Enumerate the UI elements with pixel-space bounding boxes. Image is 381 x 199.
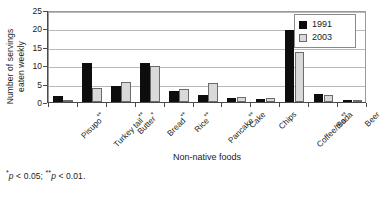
bar-pancake-2003 [208, 83, 218, 103]
legend-item-2003: 2003 [299, 31, 351, 44]
y-axis-line [47, 11, 48, 103]
x-tick-mark [77, 103, 78, 107]
y-tick-mark [43, 103, 47, 104]
x-tick-label-chips: Chips [277, 110, 298, 131]
x-tick-label-bread: Bread** [163, 110, 191, 138]
y-tick-label: 15 [24, 44, 42, 53]
x-tick-mark [279, 103, 280, 107]
y-tick-label: 25 [24, 7, 42, 16]
x-tick-label-soda: Soda [334, 110, 354, 130]
footnote-value-1: < 0.05; [14, 171, 46, 181]
x-tick-mark [48, 103, 49, 107]
x-tick-mark [366, 103, 367, 107]
bar-bread-1991 [140, 63, 150, 102]
x-tick-mark [221, 103, 222, 107]
x-tick-mark [135, 103, 136, 107]
bar-butter-2003 [121, 82, 131, 102]
y-tick-label: 20 [24, 25, 42, 34]
x-tick-mark [250, 103, 251, 107]
legend-swatch-icon-1991 [299, 21, 307, 29]
x-tick-label-beer: Beer [363, 110, 381, 129]
y-tick-label: 0 [24, 99, 42, 108]
significance-footnote: *p < 0.05; **p < 0.01. [6, 169, 85, 181]
bar-butter-1991 [111, 86, 121, 102]
bar-turkey-tail-1991 [82, 63, 92, 102]
x-tick-mark [164, 103, 165, 107]
y-tick-label: 10 [24, 62, 42, 71]
legend-label-1991: 1991 [312, 20, 332, 29]
legend-swatch-icon-2003 [299, 34, 307, 42]
bar-rice-2003 [179, 89, 189, 102]
x-tick-label-rice: Rice** [190, 110, 214, 134]
y-axis-title: Number of servings eaten weekly [5, 8, 26, 126]
bar-turkey-tail-2003 [92, 88, 102, 102]
bar-coffee-tea-1991 [285, 30, 295, 102]
x-tick-mark [193, 103, 194, 107]
bar-soda-2003 [324, 95, 334, 102]
bar-bread-2003 [150, 66, 160, 102]
legend-label-2003: 2003 [312, 33, 332, 42]
x-tick-mark [106, 103, 107, 107]
x-tick-mark [308, 103, 309, 107]
x-axis-line [47, 102, 366, 103]
bar-pancake-1991 [198, 95, 208, 102]
x-axis-title: Non-native foods [48, 152, 366, 162]
bar-coffee-tea-2003 [295, 52, 305, 102]
x-tick-label-pisupo: Pisupo** [77, 110, 107, 140]
legend-item-1991: 1991 [299, 18, 351, 31]
legend: 1991 2003 [294, 14, 356, 48]
footnote-value-2: < 0.01. [56, 171, 85, 181]
bar-soda-1991 [314, 94, 324, 102]
x-tick-mark [337, 103, 338, 107]
y-tick-label: 5 [24, 81, 42, 90]
bar-rice-1991 [169, 91, 179, 102]
